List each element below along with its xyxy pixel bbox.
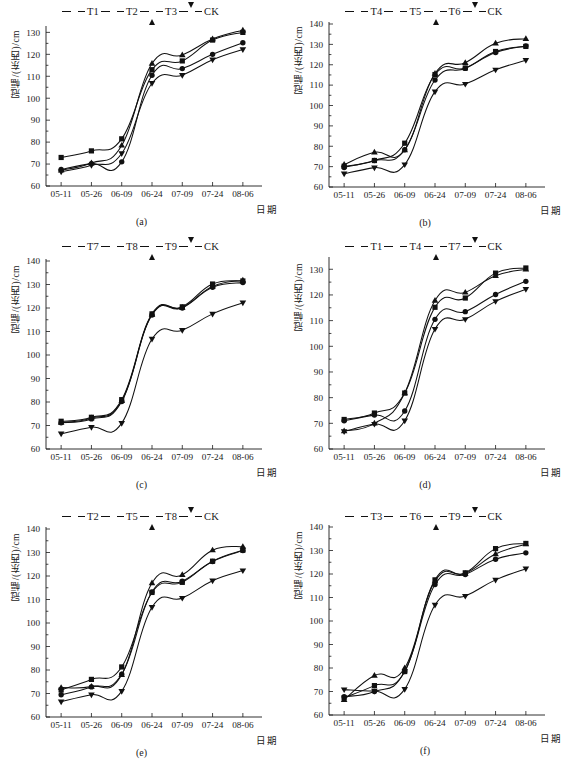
data-point-marker [149, 72, 154, 77]
y-tick-label: 100 [26, 350, 40, 360]
series-line-T1 [344, 268, 526, 419]
chart-panel-e: T2T5T8CK冠幅/(东西)/cm6070809010011012013014… [0, 505, 283, 773]
x-tick-label: 05-11 [334, 190, 355, 200]
data-point-marker [180, 58, 185, 63]
data-point-marker [240, 27, 247, 33]
series-line-T5 [61, 551, 243, 695]
y-tick-label: 60 [314, 182, 324, 192]
data-point-marker [493, 292, 498, 297]
y-tick-label: 120 [26, 303, 40, 313]
x-tick-label: 07-09 [172, 452, 194, 462]
y-tick-label: 60 [314, 444, 324, 454]
y-tick-label: 70 [31, 159, 41, 169]
data-point-marker [59, 155, 64, 160]
x-tick-label: 07-24 [202, 189, 224, 199]
series-line-CK [344, 289, 526, 431]
x-tick-label: 06-24 [424, 190, 446, 200]
data-point-marker [149, 337, 156, 343]
x-tick-label: 07-09 [455, 190, 477, 200]
chart-plot-area: 6070809010011012013014005-1105-2606-0906… [283, 0, 567, 235]
series-line-T5 [344, 46, 526, 167]
data-point-marker [372, 683, 377, 688]
data-point-marker [432, 603, 439, 609]
data-point-marker [210, 52, 215, 57]
y-tick-label: 60 [31, 444, 41, 454]
series-line-T4 [344, 46, 526, 166]
series-line-T1 [61, 32, 243, 157]
data-point-marker [493, 50, 498, 55]
chart-plot-area: 6070809010011012013014005-1105-2606-0906… [0, 235, 283, 505]
x-tick-label: 05-26 [364, 718, 386, 728]
y-tick-label: 110 [310, 593, 324, 603]
y-tick-label: 110 [27, 72, 41, 82]
data-point-marker [523, 550, 528, 555]
x-tick-label: 05-11 [51, 452, 72, 462]
x-tick-label: 07-09 [172, 720, 194, 730]
x-tick-label: 07-24 [202, 720, 224, 730]
y-tick-label: 60 [31, 181, 41, 191]
y-tick-label: 130 [26, 280, 40, 290]
data-point-marker [119, 664, 124, 669]
chart-plot-area: 6070809010011012013014005-1105-2606-0906… [0, 505, 283, 773]
data-point-marker [432, 305, 437, 310]
data-point-marker [463, 309, 468, 314]
x-tick-label: 08-06 [515, 452, 537, 462]
series-line-T7 [61, 281, 243, 422]
data-point-marker [402, 141, 407, 146]
x-axis-label: 日期 [540, 731, 561, 745]
data-point-marker [180, 66, 185, 71]
y-tick-label: 70 [314, 687, 324, 697]
y-tick-label: 130 [26, 548, 40, 558]
data-point-marker [240, 543, 247, 549]
y-tick-label: 100 [26, 618, 40, 628]
data-point-marker [149, 589, 154, 594]
figure-grid: T1T2T3CK冠幅/(东西)/cm6070809010011012013005… [0, 0, 567, 773]
x-tick-label: 06-24 [424, 452, 446, 462]
data-point-marker [240, 40, 245, 45]
x-tick-label: 06-09 [394, 190, 416, 200]
series-line-T8 [61, 546, 243, 688]
y-tick-label: 100 [309, 616, 323, 626]
x-tick-label: 08-06 [232, 720, 254, 730]
x-tick-label: 05-11 [334, 718, 355, 728]
data-point-marker [58, 432, 65, 438]
chart-panel-a: T1T2T3CK冠幅/(东西)/cm6070809010011012013005… [0, 0, 283, 235]
y-tick-label: 130 [26, 28, 40, 38]
x-tick-label: 05-26 [364, 452, 386, 462]
y-tick-label: 80 [31, 665, 41, 675]
series-line-T9 [344, 544, 526, 700]
x-tick-label: 07-09 [172, 189, 194, 199]
series-line-CK [61, 303, 243, 434]
y-tick-label: 60 [31, 712, 41, 722]
series-line-T7 [344, 269, 526, 431]
x-tick-label: 07-24 [485, 190, 507, 200]
y-tick-label: 120 [309, 290, 323, 300]
chart-plot-area: 6070809010011012013005-1105-2606-0906-24… [0, 0, 283, 235]
series-line-CK [344, 60, 526, 173]
data-point-marker [149, 67, 154, 72]
data-point-marker [180, 578, 185, 583]
chart-plot-area: 6070809010011012013005-1105-2606-0906-24… [283, 235, 567, 505]
x-tick-label: 05-26 [364, 190, 386, 200]
y-tick-label: 100 [309, 101, 323, 111]
x-tick-label: 06-09 [111, 189, 133, 199]
chart-panel-d: T1T4T7CK冠幅/(东西)/cm6070809010011012013005… [283, 235, 567, 505]
data-point-marker [402, 408, 407, 413]
data-point-marker [463, 295, 468, 300]
x-tick-label: 07-09 [455, 452, 477, 462]
chart-panel-b: T4T5T6CK冠幅/(东西)/cm6070809010011012013014… [283, 0, 567, 235]
y-tick-label: 130 [309, 546, 323, 556]
y-tick-label: 70 [314, 419, 324, 429]
chart-panel-c: T7T8T9CK冠幅/(东西)/cm6070809010011012013014… [0, 235, 283, 505]
x-tick-label: 06-24 [424, 718, 446, 728]
x-axis-label: 日期 [256, 202, 277, 216]
y-tick-label: 80 [314, 393, 324, 403]
y-tick-label: 90 [314, 367, 324, 377]
data-point-marker [119, 159, 124, 164]
y-tick-label: 90 [31, 374, 41, 384]
y-tick-label: 70 [31, 421, 41, 431]
y-tick-label: 130 [309, 40, 323, 50]
series-line-T3 [344, 543, 526, 697]
y-tick-label: 90 [314, 121, 324, 131]
data-point-marker [523, 35, 530, 41]
